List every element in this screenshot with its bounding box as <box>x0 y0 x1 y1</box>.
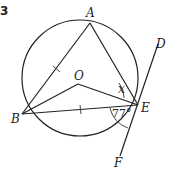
segment-bo <box>22 84 78 114</box>
label-d: D <box>155 37 166 51</box>
segment-oe <box>78 84 138 105</box>
label-f: F <box>113 156 123 170</box>
angle-label-x: x <box>118 82 125 96</box>
segment-ae <box>90 23 138 105</box>
label-e: E <box>140 101 150 115</box>
label-o: O <box>74 69 84 83</box>
angle-label-77: 77° <box>112 107 132 120</box>
tick-mark-be <box>80 105 81 114</box>
tangent-line-df <box>120 44 158 156</box>
label-a: A <box>85 6 95 20</box>
question-number: 3 <box>0 4 8 18</box>
label-b: B <box>10 112 20 126</box>
circle-theorem-diagram: 3 A O B E D F x 77° <box>0 0 171 172</box>
